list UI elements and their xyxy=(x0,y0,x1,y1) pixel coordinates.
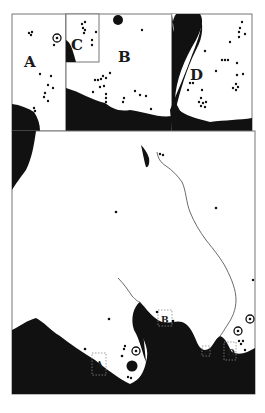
ringed-site-icon xyxy=(234,327,242,335)
inset-label-c: C xyxy=(71,36,83,54)
large-site-icon xyxy=(113,15,123,25)
ringed-site-icon xyxy=(246,315,254,323)
main-label-b: B xyxy=(161,315,169,325)
ringed-site-icon xyxy=(132,347,140,355)
inset-d: D xyxy=(170,14,252,131)
large-site-icon xyxy=(127,361,138,372)
main-label-c: C xyxy=(204,349,209,356)
inset-a: A xyxy=(12,14,66,131)
inset-c: C xyxy=(66,14,99,62)
inset-panels: A B xyxy=(12,14,252,131)
inset-label-b: B xyxy=(118,48,131,66)
main-label-a: A xyxy=(95,360,104,370)
inset-label-a: A xyxy=(23,53,36,71)
inset-label-d: D xyxy=(190,66,203,84)
main-label-d: D xyxy=(227,348,235,358)
map-figure: A B xyxy=(0,0,265,413)
main-map: A B C D xyxy=(12,131,255,394)
